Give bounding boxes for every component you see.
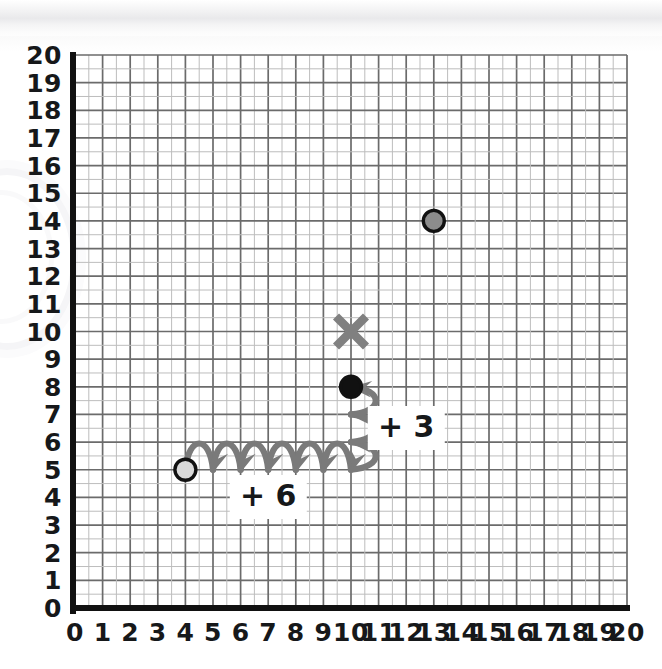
y-tick-0: 0 [44, 596, 62, 621]
gray-point [423, 210, 444, 231]
scan-artifact-band-secondary [0, 36, 662, 52]
x-tick-8: 8 [287, 620, 305, 645]
x-axis-tick-labels: 01234567891011121314151617181920 [0, 620, 662, 660]
x-tick-20: 20 [609, 620, 645, 645]
x-tick-9: 9 [314, 620, 332, 645]
x-tick-7: 7 [259, 620, 277, 645]
horizontal-jumps-label: + 6 [230, 475, 306, 519]
y-axis-line [70, 52, 76, 614]
start-point [175, 459, 196, 480]
x-tick-6: 6 [232, 620, 250, 645]
x-axis-line [72, 605, 630, 611]
y-tick-5: 5 [44, 457, 62, 482]
cross-point [336, 317, 366, 347]
y-tick-13: 13 [26, 236, 62, 261]
y-tick-10: 10 [26, 319, 62, 344]
y-tick-9: 9 [44, 347, 62, 372]
y-axis-tick-labels: 01234567891011121314151617181920 [0, 0, 62, 669]
y-tick-16: 16 [26, 153, 62, 178]
x-tick-5: 5 [204, 620, 222, 645]
x-tick-4: 4 [176, 620, 194, 645]
end-point [341, 376, 362, 397]
y-tick-19: 19 [26, 70, 62, 95]
y-tick-7: 7 [44, 402, 62, 427]
y-tick-3: 3 [44, 513, 62, 538]
y-tick-20: 20 [26, 43, 62, 68]
y-tick-6: 6 [44, 430, 62, 455]
y-tick-15: 15 [26, 181, 62, 206]
plot-artwork [75, 55, 627, 608]
y-tick-4: 4 [44, 485, 62, 510]
vertical-jumps-label: + 3 [368, 406, 444, 450]
x-tick-1: 1 [94, 620, 112, 645]
y-tick-8: 8 [44, 374, 62, 399]
coordinate-grid-plot: + 6+ 3 [75, 55, 627, 608]
y-tick-1: 1 [44, 568, 62, 593]
x-tick-2: 2 [121, 620, 139, 645]
y-tick-17: 17 [26, 125, 62, 150]
y-tick-11: 11 [26, 291, 62, 316]
y-tick-18: 18 [26, 98, 62, 123]
x-tick-0: 0 [66, 620, 84, 645]
x-tick-3: 3 [149, 620, 167, 645]
y-tick-14: 14 [26, 208, 62, 233]
y-tick-2: 2 [44, 540, 62, 565]
y-tick-12: 12 [26, 264, 62, 289]
scan-artifact-band [0, 0, 662, 40]
